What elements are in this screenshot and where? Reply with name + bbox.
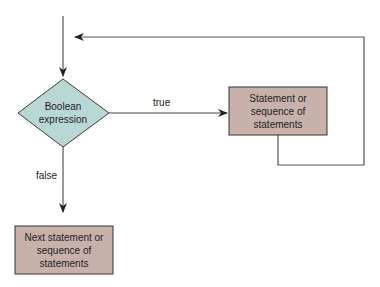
loop-body-label-line1: Statement or xyxy=(249,92,306,105)
false-edge-label: false xyxy=(36,170,57,182)
decision-label-line1: Boolean xyxy=(45,100,82,113)
loop-body-label-line3: statements xyxy=(254,118,303,131)
true-edge-label: true xyxy=(153,97,170,109)
next-statement-label-line2: sequence of xyxy=(37,244,92,257)
decision-label-line2: expression xyxy=(39,113,87,126)
loop-body-label: Statement or sequence of statements xyxy=(229,87,327,135)
loop-body-label-line2: sequence of xyxy=(251,105,306,118)
next-statement-label-line1: Next statement or xyxy=(25,231,104,244)
decision-label: Boolean expression xyxy=(28,100,98,126)
next-statement-label: Next statement or sequence of statements xyxy=(15,226,113,274)
next-statement-label-line3: statements xyxy=(40,257,89,270)
